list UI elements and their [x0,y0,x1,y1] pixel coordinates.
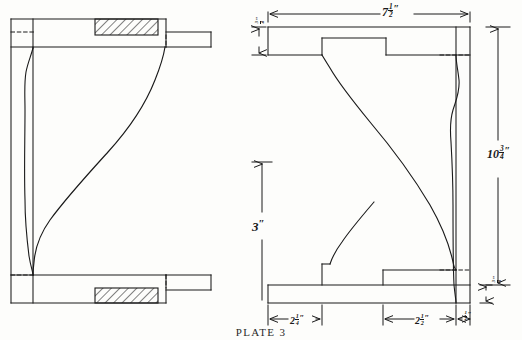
dimension-annotations [252,12,510,325]
dim-label-right-height: 1034″ [487,145,510,160]
dim-label-bottom-left: 214″ [290,313,304,326]
left-top-hatch-block [95,19,158,35]
technical-drawing-canvas [0,0,522,340]
left-wavy-edge-profile [25,48,33,275]
right-arch-profile [322,55,456,270]
right-lower-curve-join [330,202,374,264]
plate-caption: PLATE 3 [0,326,522,338]
dim-label-top-tiny: 34″ [255,17,265,24]
dim-label-right-tiny: 34″ [492,276,502,283]
right-section-view [268,27,470,303]
right-stile-wavy-profile [450,55,459,303]
left-bottom-hatch-block [95,288,158,303]
drawing-sheet: 712″ 1034″ 3″ 214″ 212″ 12″ 34″ 34″ PLAT… [0,0,522,340]
dim-label-center-height: 3″ [252,218,264,233]
dim-label-bottom-tiny: 12″ [464,311,471,321]
left-section-view [11,19,211,303]
dim-label-top-width: 712″ [382,3,399,18]
dim-label-bottom-right: 212″ [415,313,429,326]
left-arch-profile-right [33,47,165,275]
